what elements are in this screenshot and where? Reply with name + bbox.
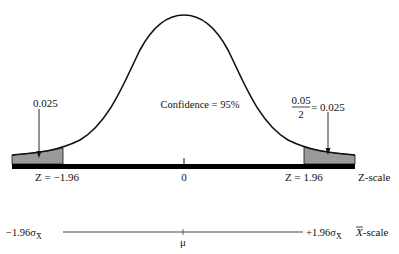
xbar-scale-label: X-scale: [355, 226, 388, 238]
normal-curve: [12, 15, 355, 155]
z-axis-bar: [12, 164, 355, 169]
z-left-critical-label: Z = −1.96: [35, 171, 79, 183]
z-scale-label: Z-scale: [358, 171, 390, 183]
right-tail-fraction-denominator: 2: [298, 108, 304, 120]
right-tail-fraction-numerator: 0.05: [291, 94, 311, 106]
xbar-center-mu-label: μ: [180, 236, 186, 248]
confidence-label: Confidence = 95%: [161, 99, 240, 110]
right-tail-equals-label: = 0.025: [311, 101, 345, 113]
left-tail-shaded-region: [12, 148, 63, 164]
left-tail-probability-label: 0.025: [33, 97, 58, 109]
xbar-right-bound-label: +1.96σX̄: [306, 227, 342, 241]
xbar-left-bound-label: −1.96σX̄: [6, 227, 42, 241]
z-center-label: 0: [181, 171, 187, 183]
confidence-interval-diagram: 0.025 Confidence = 95% 0.05 2 = 0.025 Z …: [0, 0, 399, 254]
z-right-critical-label: Z = 1.96: [285, 171, 323, 183]
